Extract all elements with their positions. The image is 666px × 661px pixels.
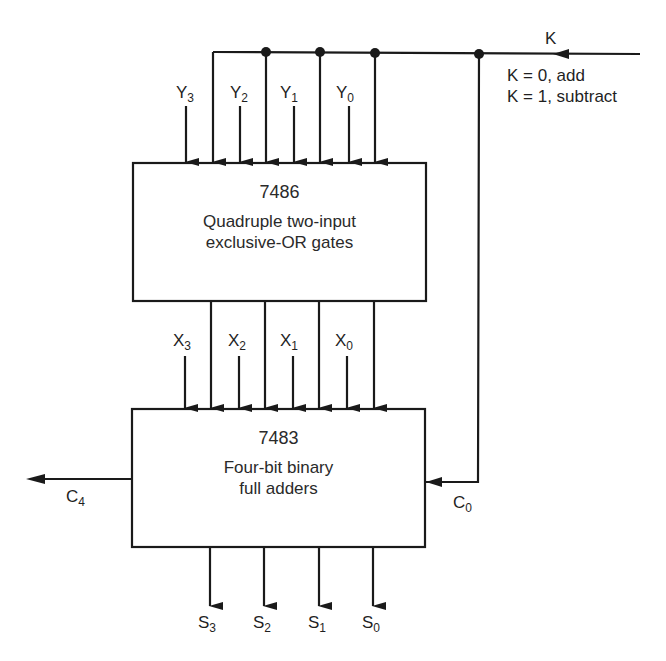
xor-description-line1: Quadruple two-input	[133, 211, 426, 232]
adder-description-line1: Four-bit binary	[132, 457, 425, 478]
x0-label: X0	[335, 332, 353, 352]
s0-label: S0	[362, 614, 380, 634]
k-note-add: K = 0, add	[507, 67, 585, 84]
k-note-subtract: K = 1, subtract	[507, 88, 617, 105]
carry-in-label: C0	[453, 494, 472, 514]
carry-in-arrow-icon	[426, 477, 442, 487]
adder-description-line2: full adders	[132, 478, 425, 499]
s2-label: S2	[253, 614, 271, 634]
k-input-arrow-icon	[553, 49, 569, 59]
junction-dot-icon	[261, 47, 271, 57]
x2-label: X2	[228, 332, 246, 352]
junction-dot-icon	[315, 47, 325, 57]
adder-block-text: 7483 Four-bit binary full adders	[132, 428, 425, 499]
carry-out-arrow-icon	[26, 474, 45, 484]
x3-label: X3	[173, 332, 191, 352]
x1-label: X1	[280, 332, 298, 352]
xor-description-line2: exclusive-OR gates	[133, 232, 426, 253]
y3-label: Y3	[176, 84, 194, 104]
carry-out-label: C4	[66, 488, 85, 508]
s3-label: S3	[198, 614, 216, 634]
y1-label: Y1	[280, 84, 298, 104]
y2-label: Y2	[230, 84, 248, 104]
junction-dot-icon	[474, 49, 484, 59]
junction-dot-icon	[370, 48, 380, 58]
k-bus-wire	[213, 52, 640, 54]
carry-in-wire	[426, 54, 479, 482]
xor-block-text: 7486 Quadruple two-input exclusive-OR ga…	[133, 182, 426, 253]
s1-label: S1	[308, 614, 326, 634]
y0-label: Y0	[336, 84, 354, 104]
k-label: K	[545, 30, 556, 47]
xor-part-number: 7486	[133, 182, 426, 203]
adder-part-number: 7483	[132, 428, 425, 449]
